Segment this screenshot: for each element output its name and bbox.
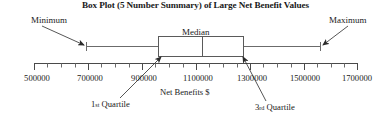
minimum-annotation-label: Minimum (31, 16, 67, 25)
maximum-annotation-arrow (323, 26, 348, 45)
minimum-annotation-arrow (42, 26, 84, 45)
x-axis-title: Net Benefits $ (160, 88, 210, 97)
q3-annotation-label: 3rd Quartile (255, 103, 295, 112)
x-axis-tick-label: 1100000 (183, 73, 213, 83)
x-axis-tick-label: 500000 (24, 73, 50, 83)
x-axis-major-ticks (35, 64, 358, 71)
q3-ordinal-suffix: rd (259, 104, 264, 111)
q1-ordinal-suffix: st (95, 101, 99, 108)
x-axis-tick-label: 900000 (131, 73, 157, 83)
x-axis-tick-label: 1700000 (342, 73, 372, 83)
q3-quartile-word: Quartile (267, 102, 295, 112)
x-axis-tick-label: 1500000 (290, 73, 320, 83)
median-annotation-label: Median (182, 28, 210, 37)
q1-quartile-word: Quartile (102, 99, 130, 109)
maximum-annotation-label: Maximum (329, 16, 367, 25)
box-plot-figure: Box Plot (5 Number Summary) of Large Net… (0, 0, 391, 116)
page-title: Box Plot (5 Number Summary) of Large Net… (0, 1, 391, 10)
x-axis-tick-label: 1300000 (237, 73, 267, 83)
q1-annotation-label: 1st Quartile (91, 100, 130, 109)
interquartile-box (159, 37, 244, 57)
x-axis-tick-label: 700000 (77, 73, 103, 83)
